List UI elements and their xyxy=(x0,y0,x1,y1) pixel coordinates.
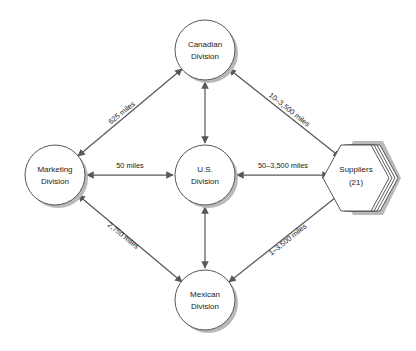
node-mexican-division[interactable]: Mexican Division xyxy=(175,270,238,333)
node-us-division[interactable]: U.S. Division xyxy=(175,145,238,208)
diagram-canvas: 625 miles 10–3,500 miles 50 miles 50–3,5… xyxy=(0,0,416,351)
node-label-line1: Marketing xyxy=(37,165,72,174)
edge-label-2750-miles: 2,750 miles xyxy=(106,220,141,251)
edge-canadian-suppliers: 10–3,500 miles xyxy=(229,69,340,157)
node-label-line1: Mexican xyxy=(190,290,220,299)
edge-label-50-3500-miles: 50–3,500 miles xyxy=(258,161,308,170)
node-label-line2: Division xyxy=(191,177,219,186)
node-marketing-division[interactable]: Marketing Division xyxy=(25,145,88,208)
node-circle xyxy=(175,145,235,205)
edge-label-10-3500-miles: 10–3,500 miles xyxy=(267,90,312,128)
node-circle xyxy=(175,270,235,330)
network-diagram: 625 miles 10–3,500 miles 50 miles 50–3,5… xyxy=(0,0,416,351)
edge-line xyxy=(78,69,182,156)
edge-mexican-suppliers: 1–3,500 miles xyxy=(229,194,340,282)
edge-marketing-mexican: 2,750 miles xyxy=(78,195,182,282)
node-canadian-division[interactable]: Canadian Division xyxy=(175,20,238,83)
edge-line xyxy=(229,69,340,157)
node-label-line2: (21) xyxy=(349,178,364,187)
node-circle xyxy=(175,20,235,80)
node-circle xyxy=(25,145,85,205)
edge-label-50-miles: 50 miles xyxy=(116,161,144,170)
node-label-line2: Division xyxy=(191,302,219,311)
node-label-line2: Division xyxy=(191,52,219,61)
edge-label-625-miles: 625 miles xyxy=(107,99,137,126)
node-label-line1: Suppliers xyxy=(339,165,372,174)
node-label-line1: Canadian xyxy=(188,40,222,49)
edge-marketing-us: 50 miles xyxy=(87,161,173,175)
edge-marketing-canadian: 625 miles xyxy=(78,69,182,156)
node-label-line2: Division xyxy=(41,177,69,186)
node-label-line1: U.S. xyxy=(197,165,213,174)
edge-us-suppliers: 50–3,500 miles xyxy=(237,161,329,175)
edge-label-1-3500-miles: 1–3,500 miles xyxy=(267,222,309,258)
